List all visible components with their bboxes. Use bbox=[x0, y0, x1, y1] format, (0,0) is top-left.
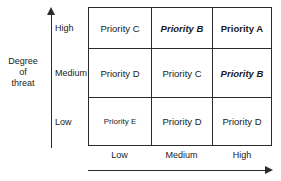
x-axis-right-arrow-icon bbox=[265, 166, 273, 174]
matrix-cell-high-medium: Priority B bbox=[152, 8, 213, 49]
matrix-grid: Priority C Priority B Priority A Priorit… bbox=[88, 7, 272, 146]
matrix-cell-high-low: Priority C bbox=[89, 8, 152, 49]
y-tick-label-low: Low bbox=[55, 117, 86, 127]
matrix-cell-medium-high: Priority B bbox=[213, 49, 271, 98]
y-axis-title-line-3: threat bbox=[0, 78, 46, 89]
matrix-cell-medium-medium: Priority C bbox=[152, 49, 213, 98]
matrix-cell-high-high: Priority A bbox=[213, 8, 271, 49]
x-axis-line bbox=[88, 170, 266, 171]
matrix-cell-low-low: Priority E bbox=[89, 98, 152, 145]
matrix-cell-medium-low: Priority D bbox=[89, 49, 152, 98]
y-axis-title: Degree of threat bbox=[0, 56, 46, 89]
matrix-cell-low-medium: Priority D bbox=[152, 98, 213, 145]
x-tick-label-high: High bbox=[212, 150, 272, 160]
y-axis-title-line-2: of bbox=[0, 67, 46, 78]
x-tick-label-low: Low bbox=[88, 150, 151, 160]
y-axis-title-line-1: Degree bbox=[0, 56, 46, 67]
matrix-cell-low-high: Priority D bbox=[213, 98, 271, 145]
y-axis-line bbox=[51, 14, 52, 148]
x-tick-label-medium: Medium bbox=[151, 150, 212, 160]
priority-matrix-diagram: Degree of threat High Medium Low Priorit… bbox=[0, 0, 281, 181]
y-tick-label-high: High bbox=[55, 23, 86, 33]
y-tick-label-medium: Medium bbox=[55, 68, 86, 78]
